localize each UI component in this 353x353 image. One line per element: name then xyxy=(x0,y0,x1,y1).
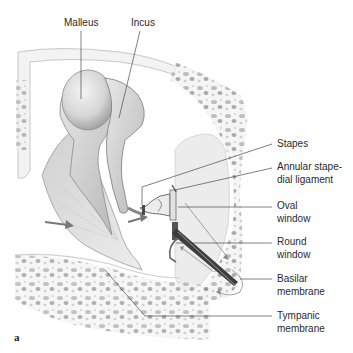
label-annular-ligament-2: dial ligament xyxy=(277,174,333,186)
label-malleus: Malleus xyxy=(64,17,98,29)
label-incus: Incus xyxy=(131,17,155,29)
label-tympanic-membrane-2: membrane xyxy=(277,323,325,335)
middle-ear-diagram: Malleus Incus Stapes Annular stape- dial… xyxy=(0,0,353,353)
label-basilar-membrane-1: Basilar xyxy=(277,273,308,285)
label-oval-window-1: Oval xyxy=(277,200,298,212)
label-oval-window-2: window xyxy=(277,213,310,225)
figure-letter: a xyxy=(14,331,20,343)
label-round-window-1: Round xyxy=(277,236,306,248)
stapes-footplate xyxy=(170,190,176,220)
label-round-window-2: window xyxy=(277,249,310,261)
sound-arrow-stapes xyxy=(128,218,142,222)
label-stapes: Stapes xyxy=(277,138,308,150)
label-basilar-membrane-2: membrane xyxy=(277,286,325,298)
incus xyxy=(105,78,144,213)
label-tympanic-membrane-1: Tympanic xyxy=(277,310,320,322)
label-annular-ligament-1: Annular stape- xyxy=(277,161,342,173)
